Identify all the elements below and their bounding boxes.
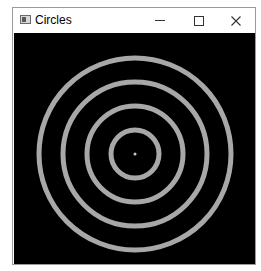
- minimize-icon: [155, 20, 165, 21]
- concentric-circles: [14, 33, 255, 264]
- title-bar[interactable]: Circles: [13, 8, 255, 33]
- drawing-canvas[interactable]: [14, 33, 255, 264]
- maximize-button[interactable]: [182, 8, 216, 33]
- close-button[interactable]: [219, 8, 253, 33]
- minimize-button[interactable]: [143, 8, 177, 33]
- app-icon: [20, 15, 31, 24]
- close-icon: [231, 16, 241, 26]
- window-title: Circles: [35, 13, 72, 27]
- circles-window: Circles: [12, 7, 256, 265]
- center-dot: [134, 153, 137, 156]
- maximize-icon: [194, 16, 204, 26]
